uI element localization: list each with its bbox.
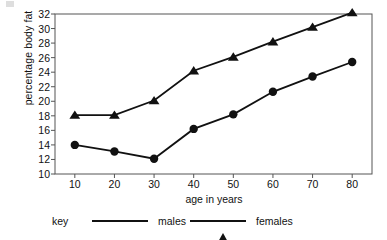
data-point-females [268,37,279,45]
legend-key-label: key [52,215,68,227]
legend-label-males: males [158,215,186,227]
x-tick-label: 30 [139,178,169,190]
legend-label-females: females [256,215,293,227]
data-point-males [269,88,277,96]
x-tick-label: 80 [337,178,367,190]
x-tick-label: 10 [60,178,90,190]
chart-figure: 323028262422201816141210 percentage body… [0,0,387,240]
legend-line-males [92,220,148,222]
data-point-males [150,155,158,163]
data-point-females [347,8,358,16]
data-point-males [189,125,197,133]
data-point-males [71,141,79,149]
data-point-males [229,110,237,118]
triangle-marker-icon [218,221,228,233]
data-point-females [307,22,318,30]
data-point-males [110,147,118,155]
data-series-group [69,8,357,163]
x-tick-label: 60 [258,178,288,190]
x-tick-label: 50 [218,178,248,190]
y-axis-ticks [51,14,55,174]
data-point-females [228,52,239,60]
data-point-males [308,72,316,80]
chart-legend: key males females [0,208,387,236]
x-tick-label: 20 [99,178,129,190]
data-point-males [348,58,356,66]
x-tick-label: 70 [298,178,328,190]
plot-area [0,0,387,240]
x-tick-label: 40 [179,178,209,190]
